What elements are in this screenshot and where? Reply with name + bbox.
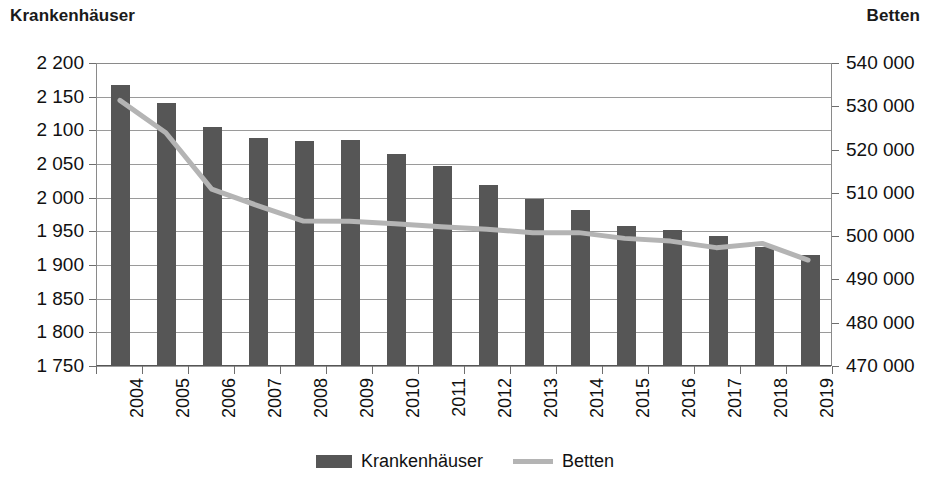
left-axis-tick-label: 2 050 — [36, 154, 84, 173]
left-axis-title: Krankenhäuser — [10, 6, 135, 26]
right-axis-tick-mark — [832, 106, 839, 107]
x-axis-label-2013: 2013 — [542, 378, 560, 418]
x-axis-label-2009: 2009 — [358, 378, 376, 418]
x-axis-tick-mark — [786, 366, 787, 374]
x-axis-label-2018: 2018 — [772, 378, 790, 418]
x-axis-tick-mark — [464, 366, 465, 374]
legend-label: Betten — [562, 452, 614, 470]
betten-polyline — [120, 100, 808, 260]
right-axis-tick-mark — [832, 279, 839, 280]
x-axis-label-2012: 2012 — [496, 378, 514, 418]
right-axis-tick-label: 540 000 — [846, 53, 915, 72]
left-axis-tick-label: 2 150 — [36, 87, 84, 106]
plot-area — [96, 63, 832, 366]
right-axis-tick-mark — [832, 193, 839, 194]
x-axis-tick-mark — [188, 366, 189, 374]
x-axis-tick-mark — [234, 366, 235, 374]
right-axis-tick-mark — [832, 150, 839, 151]
right-axis-tick-label: 490 000 — [846, 269, 915, 288]
x-axis-label-2006: 2006 — [220, 378, 238, 418]
right-axis-tick-label: 530 000 — [846, 96, 915, 115]
x-axis-tick-mark — [602, 366, 603, 374]
right-axis-tick-mark — [832, 366, 839, 367]
x-axis-label-2008: 2008 — [312, 378, 330, 418]
x-axis-tick-mark — [96, 366, 97, 374]
right-axis-tick-mark — [832, 63, 839, 64]
left-axis-tick-label: 1 950 — [36, 221, 84, 240]
x-axis-label-2010: 2010 — [404, 378, 422, 418]
x-axis-tick-mark — [832, 366, 833, 374]
left-axis-tick-label: 2 000 — [36, 188, 84, 207]
legend-item-2[interactable]: Betten — [513, 452, 614, 470]
x-axis-tick-mark — [372, 366, 373, 374]
left-axis-tick-mark — [89, 332, 96, 333]
chart-legend: KrankenhäuserBetten — [0, 452, 930, 470]
left-axis-tick-mark — [89, 231, 96, 232]
left-axis-tick-label: 1 850 — [36, 289, 84, 308]
x-axis-label-2005: 2005 — [174, 378, 192, 418]
right-axis-tick-label: 480 000 — [846, 313, 915, 332]
x-axis-label-2007: 2007 — [266, 378, 284, 418]
left-axis-tick-mark — [89, 198, 96, 199]
x-axis-tick-mark — [648, 366, 649, 374]
x-axis-label-2014: 2014 — [588, 378, 606, 418]
left-axis-tick-mark — [89, 299, 96, 300]
left-axis-tick-mark — [89, 164, 96, 165]
left-axis-tick-mark — [89, 130, 96, 131]
legend-bar-swatch-icon — [316, 455, 352, 468]
left-axis-tick-label: 1 750 — [36, 356, 84, 375]
hospital-beds-chart: Krankenhäuser Betten 2 2002 1502 1002 05… — [0, 0, 930, 490]
x-axis-tick-mark — [418, 366, 419, 374]
x-axis-label-2011: 2011 — [450, 378, 468, 417]
x-axis-tick-mark — [740, 366, 741, 374]
x-axis-tick-mark — [510, 366, 511, 374]
x-axis-tick-mark — [326, 366, 327, 374]
right-axis-tick-label: 470 000 — [846, 356, 915, 375]
line-series-betten — [97, 63, 831, 365]
legend-line-swatch-icon — [513, 459, 553, 464]
left-axis-tick-label: 1 800 — [36, 322, 84, 341]
right-axis-tick-label: 520 000 — [846, 140, 915, 159]
left-axis-tick-label: 2 200 — [36, 53, 84, 72]
x-axis-label-2015: 2015 — [634, 378, 652, 418]
right-axis-tick-label: 510 000 — [846, 183, 915, 202]
right-axis-tick-mark — [832, 323, 839, 324]
legend-label: Krankenhäuser — [361, 452, 483, 470]
right-axis-tick-label: 500 000 — [846, 226, 915, 245]
left-axis-tick-mark — [89, 97, 96, 98]
left-axis-tick-label: 2 100 — [36, 120, 84, 139]
left-axis-tick-mark — [89, 265, 96, 266]
x-axis-label-2017: 2017 — [726, 378, 744, 418]
left-axis-tick-mark — [89, 63, 96, 64]
right-axis-title: Betten — [867, 6, 921, 26]
legend-item-1[interactable]: Krankenhäuser — [316, 452, 483, 470]
x-axis-label-2016: 2016 — [680, 378, 698, 418]
right-axis-tick-mark — [832, 236, 839, 237]
x-axis-label-2004: 2004 — [128, 378, 146, 418]
x-axis-tick-mark — [556, 366, 557, 374]
x-axis-tick-mark — [280, 366, 281, 374]
x-axis-label-2019: 2019 — [818, 378, 836, 418]
left-axis-tick-label: 1 900 — [36, 255, 84, 274]
left-axis-tick-mark — [89, 366, 96, 367]
x-axis-tick-mark — [142, 366, 143, 374]
x-axis-tick-mark — [694, 366, 695, 374]
